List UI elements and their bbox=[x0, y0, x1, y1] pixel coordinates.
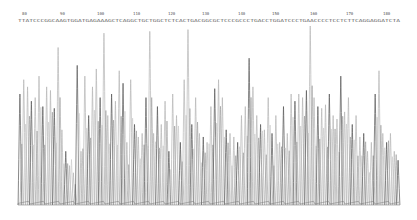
position-tick-label: 80 bbox=[22, 11, 27, 16]
trace-peak bbox=[186, 30, 190, 205]
position-ticks: 8090100110120130140150160170180 bbox=[22, 11, 391, 16]
position-tick-label: 160 bbox=[310, 11, 318, 16]
trace-peak bbox=[83, 76, 87, 205]
base-call-sequence: TTATCCCGGCAAGTGGATGAGAAAGCTCAGGCTGCTGGCT… bbox=[18, 18, 401, 23]
position-tick-label: 140 bbox=[238, 11, 246, 16]
trace-peak bbox=[282, 107, 286, 205]
trace-peak bbox=[102, 33, 106, 205]
position-tick-label: 110 bbox=[133, 11, 141, 16]
trace-peak bbox=[144, 98, 148, 205]
position-tick-label: 100 bbox=[97, 11, 105, 16]
trace-peak bbox=[148, 31, 152, 205]
position-tick-label: 120 bbox=[168, 11, 176, 16]
position-tick-label: 130 bbox=[202, 11, 210, 16]
trace-peaks bbox=[18, 26, 400, 205]
position-tick-label: 180 bbox=[383, 11, 391, 16]
trace-peak bbox=[18, 94, 22, 205]
position-tick-label: 90 bbox=[60, 11, 65, 16]
position-tick-label: 150 bbox=[272, 11, 280, 16]
position-tick-label: 170 bbox=[346, 11, 354, 16]
chromatogram-chart: 8090100110120130140150160170180 TTATCCCG… bbox=[0, 0, 417, 220]
